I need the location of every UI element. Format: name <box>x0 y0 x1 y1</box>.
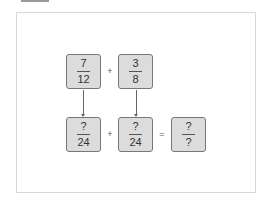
denominator: 24 <box>77 136 89 148</box>
fraction-box-7-12: 7 12 <box>66 54 101 89</box>
fraction-bar <box>77 134 90 135</box>
fraction-bar <box>129 134 142 135</box>
numerator: ? <box>185 121 191 133</box>
down-arrow-icon <box>136 90 137 115</box>
fraction-box-q-24-a: ? 24 <box>66 117 101 152</box>
plus-operator-bottom: + <box>104 129 116 139</box>
equals-operator: = <box>156 129 168 139</box>
fraction-bar <box>182 134 195 135</box>
numerator: 3 <box>132 58 138 70</box>
denominator: 24 <box>129 136 141 148</box>
numerator: 7 <box>80 58 86 70</box>
down-arrow-icon <box>83 90 84 115</box>
denominator: ? <box>185 136 191 148</box>
numerator: ? <box>80 121 86 133</box>
fraction-bar <box>129 71 142 72</box>
denominator: 8 <box>132 73 138 85</box>
denominator: 12 <box>77 73 89 85</box>
fraction-box-3-8: 3 8 <box>118 54 153 89</box>
fraction-bar <box>77 71 90 72</box>
top-tab-bar <box>21 0 49 2</box>
plus-operator-top: + <box>104 66 116 76</box>
numerator: ? <box>132 121 138 133</box>
fraction-box-q-24-b: ? 24 <box>118 117 153 152</box>
result-fraction-box: ? ? <box>171 117 206 152</box>
